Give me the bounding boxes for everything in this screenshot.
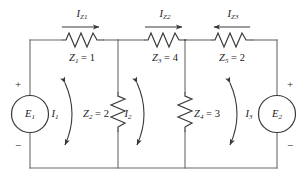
resistor-z3 <box>144 33 186 47</box>
polarity-plus-e1: + <box>15 79 21 90</box>
resistor-z2 <box>111 92 125 132</box>
polarity-minus-e1: − <box>15 140 21 151</box>
circuit-schematic-canvas <box>0 0 305 182</box>
mesh-current-label-i1: I1 <box>52 109 59 120</box>
shunt-impedance-label-z2: Z2 = 2 <box>83 109 109 120</box>
resistor-z1 <box>62 33 104 47</box>
polarity-minus-e2: − <box>287 140 293 151</box>
mesh-current-arc-i2 <box>137 83 144 145</box>
series-impedance-label-z1: Z1 = 1 <box>69 53 95 64</box>
mesh-current-label-i3: I3 <box>246 109 253 120</box>
mesh-current-arc-i1 <box>65 83 72 145</box>
series-impedance-label-z5: Z5 = 2 <box>219 53 245 64</box>
voltage-source-label-e1: E1 <box>25 109 35 120</box>
mesh-current-arc-i3 <box>230 83 237 145</box>
series-impedance-label-z3: Z3 = 4 <box>152 53 178 64</box>
voltage-source-label-e2: E2 <box>272 109 282 120</box>
resistor-z4 <box>178 92 192 132</box>
circuit-diagram: IZ1 IZ2 IZ3 Z1 = 1 Z3 = 4 Z5 = 2 Z2 = 2 … <box>0 0 305 182</box>
resistor-z5 <box>211 33 253 47</box>
branch-current-label-iz1: IZ1 <box>77 9 88 20</box>
branch-current-label-iz3: IZ3 <box>228 9 239 20</box>
mesh-current-label-i2: I2 <box>125 109 132 120</box>
shunt-impedance-label-z4: Z4 = 3 <box>194 109 220 120</box>
polarity-plus-e2: + <box>287 79 293 90</box>
branch-current-label-iz2: IZ2 <box>160 9 171 20</box>
